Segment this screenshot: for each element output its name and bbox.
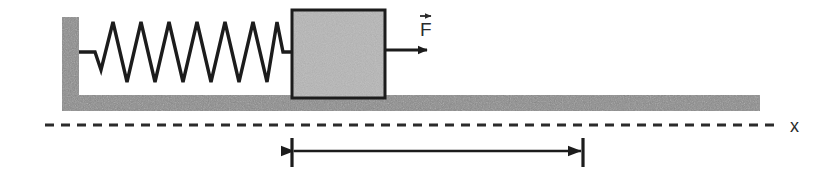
force-label: F	[420, 19, 432, 40]
displacement-dimension	[292, 138, 583, 167]
block-rect	[292, 10, 385, 98]
spring	[79, 22, 292, 82]
axis-label-x: x	[790, 116, 799, 136]
floor-rect	[62, 95, 760, 111]
displacement-axis: x	[45, 116, 799, 136]
spring-mass-diagram: F x	[0, 0, 832, 178]
diagram-canvas: F x	[0, 0, 832, 178]
mass-block	[292, 10, 385, 98]
spring-zigzag-path	[79, 22, 292, 82]
applied-force: F	[385, 16, 432, 50]
